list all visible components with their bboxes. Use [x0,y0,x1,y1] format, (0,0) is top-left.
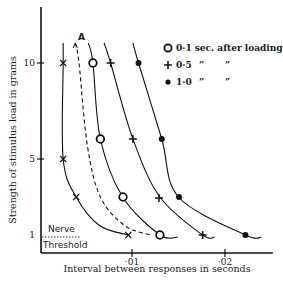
arrow-head-marker [73,43,77,48]
open-circle-marker [156,231,164,239]
open-circle-marker [97,135,105,143]
y-axis-title: Strength of stimulus load in grams [7,56,18,224]
dot-marker [242,232,248,238]
plus-marker [199,231,207,239]
plus-marker [107,59,115,67]
open-circle-marker [89,59,97,67]
x-axis-title: Interval between responses in seconds [63,263,250,274]
legend-ditto-mark: ” [225,77,230,87]
legend-label: 0·5 [176,60,192,70]
legend-ditto-mark: ” [199,77,204,87]
legend-ditto-mark: ” [225,60,230,70]
dot-marker [136,60,142,66]
legend-open-circle-icon [164,44,171,51]
annotation-nerve: Nerve [48,224,75,234]
cross-marker [73,194,79,200]
open-circle-marker [119,193,127,201]
legend-label: 1·0 [176,77,192,87]
chart: 1051·01·02 Interval between responses in… [0,0,283,285]
dot-marker [176,194,182,200]
annotation-threshold: Threshold [42,240,87,250]
plus-marker [129,135,137,143]
legend-dot-icon [165,79,170,84]
series-line-4 [133,43,262,238]
y-tick-label: 1 [29,230,35,240]
dot-marker [159,136,165,142]
annotation-a: A [78,32,85,42]
legend-label: 0·1 sec. after loading [176,43,283,53]
series-line-0 [62,43,128,235]
legend: 0·1 sec. after loading0·5””1·0”” [164,43,283,87]
y-tick-label: 5 [29,154,35,164]
legend-plus-icon [164,61,172,69]
plus-marker [155,194,163,202]
legend-ditto-mark: ” [199,60,204,70]
y-tick-label: 10 [24,58,36,68]
